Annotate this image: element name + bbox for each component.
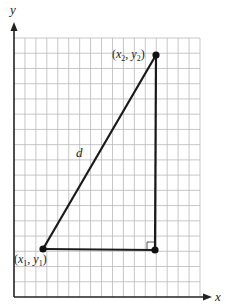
y-axis-arrow-icon <box>11 22 18 31</box>
x-axis-label: x <box>214 289 221 304</box>
distance-diagram: y x d (x2, y2) (x1, y1) <box>0 0 226 307</box>
distance-label: d <box>76 145 83 160</box>
vertical-leg-segment <box>155 55 156 250</box>
point-p1-label: (x1, y1) <box>14 252 47 268</box>
y-axis-label: y <box>8 2 16 17</box>
point-p2-label: (x2, y2) <box>112 47 145 63</box>
point-corner <box>151 246 158 253</box>
point-p2 <box>152 51 159 58</box>
horizontal-leg-segment <box>43 249 155 250</box>
x-axis-arrow-icon <box>203 294 212 301</box>
